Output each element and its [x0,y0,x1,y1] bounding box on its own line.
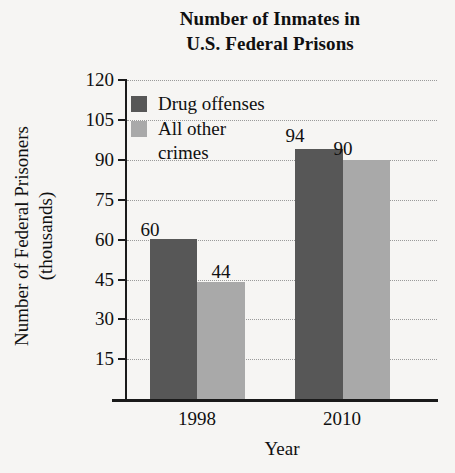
y-tick-label-120: 120 [72,70,114,89]
y-tick-label-105: 105 [72,110,114,129]
legend-label-all-other-crimes: All other crimes [158,117,226,165]
x-axis-line [112,399,438,402]
legend-swatch-drug-offenses [131,96,147,112]
y-axis-title-line-2: (thousands) [34,91,58,381]
y-tick-label-90: 90 [72,150,114,169]
y-axis-title: Number of Federal Prisoners (thousands) [10,91,58,381]
bar-chart: Number of Inmates in U.S. Federal Prison… [0,0,455,473]
bar-label-2010-other: 90 [315,139,371,158]
gridline-75 [127,200,437,201]
bar-label-1998-other: 44 [193,262,249,281]
legend-label-drug-offenses: Drug offenses [158,92,265,116]
gridline-120 [127,80,437,81]
chart-title: Number of Inmates in U.S. Federal Prison… [120,6,420,56]
y-tick-label-30: 30 [72,309,114,328]
y-tick-label-45: 45 [72,270,114,289]
legend-item-all-other-crimes: All other crimes [131,117,265,165]
x-tick-label-1998: 1998 [142,408,252,430]
legend-swatch-all-other-crimes [131,121,147,137]
chart-legend: Drug offenses All other crimes [131,92,265,166]
legend-item-drug-offenses: Drug offenses [131,92,265,116]
y-tick-label-75: 75 [72,190,114,209]
chart-title-line-1: Number of Inmates in [120,6,420,31]
bar-1998-drug-offenses [150,239,197,399]
chart-title-line-2: U.S. Federal Prisons [120,31,420,56]
bar-1998-all-other-crimes [197,282,245,399]
x-axis-title: Year [127,438,437,460]
bar-2010-drug-offenses [295,149,343,399]
y-tick-label-15: 15 [72,349,114,368]
bar-label-1998-drug: 60 [122,220,178,239]
y-tick-label-60: 60 [72,230,114,249]
bar-2010-all-other-crimes [343,160,390,399]
y-axis-title-line-1: Number of Federal Prisoners [10,91,34,381]
x-tick-label-2010: 2010 [287,408,397,430]
